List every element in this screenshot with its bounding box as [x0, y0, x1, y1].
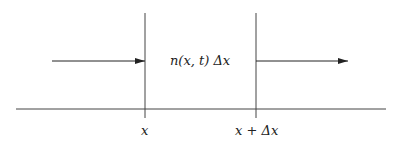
- flux-diagram: [0, 0, 393, 143]
- x-plus-dx-label: x + Δx: [235, 124, 278, 137]
- x-label: x: [141, 124, 148, 137]
- density-label: n(x, t) Δx: [170, 54, 230, 67]
